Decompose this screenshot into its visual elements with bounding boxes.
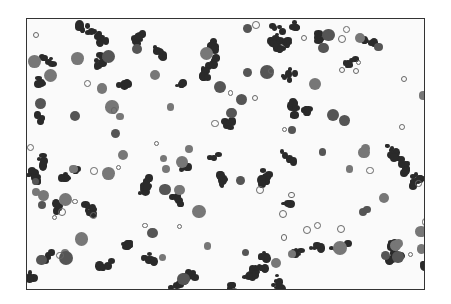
cell-blob	[36, 255, 47, 266]
cell-blob	[177, 273, 189, 285]
cell-blob	[97, 83, 108, 94]
cell-ring	[366, 167, 373, 174]
cell-ring	[288, 192, 294, 198]
cell-blob	[102, 50, 115, 63]
cell-blob	[40, 157, 48, 165]
cell-blob	[185, 145, 193, 153]
cell-blob	[160, 155, 168, 163]
micrograph-image	[26, 18, 425, 290]
cell-blob	[392, 251, 403, 262]
cell-blob	[177, 201, 183, 207]
cell-blob	[167, 103, 175, 111]
cell-blob	[32, 188, 40, 196]
cell-ring	[252, 21, 260, 29]
cell-ring	[177, 224, 182, 229]
cell-ring	[415, 180, 422, 187]
cell-ring	[356, 60, 362, 66]
cell-blob	[292, 70, 298, 77]
cell-ring	[339, 67, 345, 73]
cell-blob	[420, 261, 425, 272]
cell-blob	[363, 206, 370, 213]
cell-ring	[303, 226, 311, 234]
cell-blob	[319, 148, 327, 156]
cell-blob	[271, 258, 281, 268]
cell-blob	[70, 111, 80, 121]
cell-blob	[71, 52, 84, 65]
cell-blob	[111, 129, 120, 138]
cell-blob	[275, 274, 280, 278]
cell-blob	[134, 34, 142, 39]
cell-blob	[105, 263, 109, 268]
cell-blob	[419, 91, 425, 99]
cell-blob	[374, 43, 383, 52]
cell-blob	[313, 242, 320, 248]
cell-ring	[256, 186, 264, 194]
cell-blob	[288, 250, 296, 258]
cell-blob	[236, 176, 245, 185]
cell-ring	[84, 80, 91, 87]
cell-ring	[353, 68, 359, 74]
cell-ring	[301, 35, 307, 41]
cell-blob	[285, 70, 292, 78]
cell-ring	[116, 165, 121, 170]
cell-blob	[339, 115, 350, 126]
cell-ring	[228, 90, 233, 95]
cell-blob	[227, 125, 234, 130]
cell-blob	[291, 24, 300, 31]
cell-blob	[309, 246, 313, 250]
cell-blob	[415, 226, 425, 237]
cell-blob	[125, 240, 133, 248]
cell-ring	[282, 127, 287, 132]
cell-ring	[142, 223, 148, 229]
cell-ring	[408, 252, 413, 257]
cell-ring	[281, 234, 287, 240]
cell-blob	[48, 252, 53, 256]
cell-blob	[162, 165, 170, 173]
cell-blob	[94, 62, 100, 69]
cell-ring	[33, 32, 40, 39]
cell-blob	[204, 242, 212, 250]
cell-ring	[72, 199, 78, 205]
cell-blob	[204, 74, 212, 80]
cell-blob	[103, 37, 109, 44]
cell-blob	[192, 205, 205, 218]
cell-blob	[322, 29, 334, 41]
cell-blob	[358, 147, 369, 158]
cell-blob	[333, 241, 347, 255]
cell-blob	[145, 174, 153, 182]
cell-blob	[85, 23, 90, 28]
cell-ring	[211, 120, 219, 128]
cell-blob	[288, 126, 296, 134]
cell-blob	[49, 57, 53, 61]
cell-blob	[28, 55, 41, 68]
cell-blob	[118, 150, 128, 160]
cell-blob	[48, 61, 57, 67]
cell-blob	[287, 77, 292, 83]
cell-blob	[88, 28, 95, 35]
cell-blob	[346, 165, 354, 173]
cell-blob	[38, 201, 46, 209]
cell-blob	[398, 156, 405, 163]
cell-ring	[90, 167, 98, 175]
cell-blob	[27, 275, 34, 281]
cell-blob	[214, 81, 226, 93]
cell-blob	[220, 184, 224, 188]
cell-blob	[124, 80, 132, 88]
cell-ring	[422, 218, 425, 225]
cell-ring	[338, 35, 346, 43]
cell-ring	[337, 225, 345, 233]
cell-blob	[44, 69, 57, 82]
cell-blob	[417, 244, 425, 254]
cell-ring	[343, 26, 350, 33]
cell-blob	[226, 108, 237, 119]
cell-blob	[75, 232, 88, 245]
cell-blob	[153, 47, 162, 54]
cell-blob	[75, 20, 84, 30]
cell-blob	[132, 44, 143, 55]
cell-ring	[58, 208, 66, 216]
cell-blob	[288, 67, 292, 71]
cell-blob	[94, 33, 101, 39]
cell-ring	[90, 212, 98, 220]
cell-blob	[179, 79, 187, 87]
cell-blob	[297, 248, 305, 253]
